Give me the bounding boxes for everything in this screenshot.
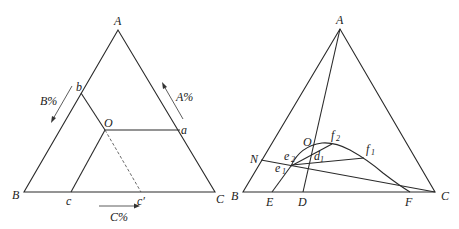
right-triangle-outline [243,29,435,192]
label-point-c-prime: c′ [137,194,145,208]
label-vertex-C-right: C [441,189,450,203]
svg-text:2: 2 [291,155,295,164]
ternary-diagrams-figure: A B C b O a c c′ B% A% C% A B C N E D F … [0,0,459,229]
label-point-f2: f 2 [331,128,340,143]
label-C-percent: C% [110,210,128,224]
label-vertex-A: A [113,14,122,28]
arrow-C-percent [99,204,140,209]
label-point-E: E [265,195,274,209]
svg-text:e: e [284,149,290,163]
label-point-O: O [104,116,113,130]
label-point-O-right: O [303,135,312,149]
left-triangle-outline [24,30,215,192]
label-vertex-A-right: A [335,13,344,27]
svg-text:1: 1 [371,148,375,157]
line-A-to-D [303,29,340,192]
svg-text:1: 1 [282,167,286,176]
label-point-N: N [249,152,259,166]
label-B-percent: B% [40,94,57,108]
label-point-b: b [76,80,82,94]
label-point-a: a [181,123,187,137]
label-point-D: D [297,195,307,209]
svg-text:1: 1 [320,155,324,164]
svg-text:e: e [275,161,281,175]
svg-text:2: 2 [336,134,340,143]
line-O-to-c [71,130,105,192]
label-point-F: F [404,195,413,209]
label-point-c: c [66,194,72,208]
label-point-d1: d 1 [314,149,324,164]
label-A-percent: A% [175,90,193,104]
label-vertex-B: B [12,188,20,202]
left-ternary-diagram: A B C b O a c c′ B% A% C% [12,14,225,224]
line-N-to-C [261,160,435,192]
right-ternary-diagram: A B C N E D F O e 2 e 1 d 1 f 2 f 1 [231,13,450,209]
label-vertex-B-right: B [231,189,239,203]
label-vertex-C: C [216,192,225,206]
dashed-line-O-to-c-prime [105,130,141,192]
label-point-e2: e 2 [284,149,295,164]
label-point-f1: f 1 [366,142,375,157]
line-b-to-O [81,93,105,130]
